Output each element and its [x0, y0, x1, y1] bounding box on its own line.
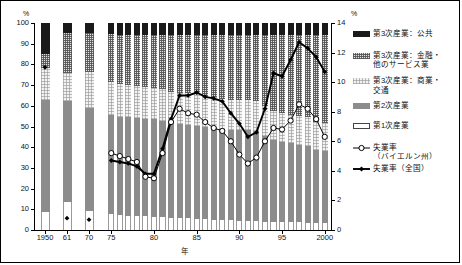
legend-label: 第3次産業：公共 — [373, 29, 433, 38]
line-marker-open-circle — [194, 112, 199, 117]
left-tick-mark — [31, 168, 34, 169]
left-tick-label: 70 — [1, 81, 29, 89]
legend-label: 第3次産業：商業・ — [373, 76, 441, 85]
legend-label: 第2次産業 — [373, 101, 409, 110]
right-tick-label: 8 — [337, 108, 341, 116]
line-marker-open-circle — [271, 125, 276, 130]
legend-item-tertiary-public[interactable]: 第3次産業：公共 — [353, 29, 457, 39]
line-marker-open-circle — [305, 106, 310, 111]
x-tick-label: 61 — [63, 234, 71, 242]
right-tick-mark — [332, 82, 335, 83]
line-marker-open-circle — [322, 134, 327, 139]
left-tick-label: 20 — [1, 185, 29, 193]
legend-label: 第1次産業 — [373, 121, 409, 130]
x-tick-label: 90 — [235, 234, 243, 242]
line-marker-open-circle — [262, 139, 267, 144]
line-marker-filled-diamond — [87, 217, 92, 222]
x-tick-label: 75 — [107, 234, 115, 242]
x-tick-mark — [239, 231, 240, 234]
legend-label: 失業率（全国） — [373, 164, 429, 173]
line-marker-open-circle — [279, 127, 284, 132]
legend-label-line2: （バイエルン州） — [353, 152, 457, 161]
x-tick-mark — [111, 231, 112, 234]
line-marker-open-circle — [245, 161, 250, 166]
right-tick-label: 10 — [337, 78, 345, 86]
line-marker-open-circle — [117, 153, 122, 158]
line-marker-open-circle — [177, 106, 182, 111]
right-axis-unit: % — [351, 10, 357, 17]
legend-item-tertiary-commerce[interactable]: 第3次産業：商業・交通 — [353, 76, 457, 95]
right-tick-label: 14 — [337, 19, 345, 27]
line-marker-filled-diamond — [117, 160, 122, 165]
line-marker-open-circle — [297, 102, 302, 107]
line-marker-filled-diamond — [43, 65, 48, 70]
left-tick-mark — [31, 85, 34, 86]
left-tick-mark — [31, 189, 34, 190]
open-circle-marker-icon — [353, 144, 370, 152]
line-marker-filled-diamond — [186, 93, 191, 98]
legend-label: 失業率 — [373, 143, 397, 152]
line-marker-open-circle — [237, 152, 242, 157]
line-marker-filled-diamond — [177, 93, 182, 98]
x-tick-mark — [325, 231, 326, 234]
line-marker-open-circle — [160, 151, 165, 156]
line-marker-open-circle — [168, 119, 173, 124]
left-tick-label: 40 — [1, 143, 29, 151]
line-unemp-bavaria — [109, 102, 328, 181]
line-marker-filled-diamond — [65, 216, 70, 221]
line-marker-filled-diamond — [211, 96, 216, 101]
line-marker-open-circle — [143, 174, 148, 179]
left-tick-label: 10 — [1, 206, 29, 214]
left-axis-unit: % — [23, 10, 29, 17]
line-marker-open-circle — [151, 176, 156, 181]
line-marker-filled-diamond — [109, 158, 114, 163]
line-marker-open-circle — [220, 128, 225, 133]
right-tick-mark — [332, 171, 335, 172]
legend-item-primary[interactable]: 第1次産業 — [353, 121, 457, 131]
x-tick-label: 85 — [192, 234, 200, 242]
legend-swatch-primary — [353, 123, 370, 129]
legend-item-tertiary-finance[interactable]: 第3次産業：金融・他のサービス業 — [353, 51, 457, 70]
x-axis-label: 年 — [181, 245, 188, 256]
line-marker-open-circle — [288, 118, 293, 123]
line-marker-open-circle — [126, 156, 131, 161]
left-tick-mark — [31, 230, 34, 231]
x-tick-mark — [154, 231, 155, 234]
left-tick-mark — [31, 23, 34, 24]
x-tick-label: 2000 — [316, 234, 333, 242]
left-tick-mark — [31, 209, 34, 210]
left-tick-mark — [31, 147, 34, 148]
line-marker-open-circle — [109, 151, 114, 156]
x-tick-mark — [67, 231, 68, 234]
right-tick-mark — [332, 112, 335, 113]
line-marker-open-circle — [211, 125, 216, 130]
line-marker-open-circle — [228, 139, 233, 144]
left-tick-mark — [31, 127, 34, 128]
left-tick-mark — [31, 64, 34, 65]
legend-swatch-tertiary-finance — [353, 53, 370, 59]
line-marker-filled-diamond — [263, 106, 268, 111]
left-tick-label: 100 — [1, 19, 29, 27]
legend-label-line2: 交通 — [353, 86, 457, 95]
line-marker-open-circle — [254, 155, 259, 160]
x-tick-mark — [89, 231, 90, 234]
legend-item-unemp-bavaria[interactable]: 失業率（バイエルン州） — [353, 143, 457, 162]
left-tick-label: 0 — [1, 226, 29, 234]
x-tick-mark — [45, 231, 46, 234]
left-tick-label: 90 — [1, 40, 29, 48]
right-tick-label: 2 — [337, 197, 341, 205]
right-tick-label: 6 — [337, 138, 341, 146]
right-tick-label: 0 — [337, 226, 341, 234]
right-tick-mark — [332, 230, 335, 231]
legend-item-secondary[interactable]: 第2次産業 — [353, 101, 457, 111]
x-tick-label: 1950 — [37, 234, 54, 242]
legend-swatch-tertiary-public — [353, 31, 370, 37]
legend-label-line2: 他のサービス業 — [353, 60, 457, 69]
x-axis — [34, 230, 332, 231]
x-tick-label: 95 — [278, 234, 286, 242]
legend-swatch-secondary — [353, 103, 370, 109]
line-marker-open-circle — [314, 117, 319, 122]
x-tick-label: 80 — [150, 234, 158, 242]
x-tick-label: 70 — [85, 234, 93, 242]
legend-item-unemp-national[interactable]: 失業率（全国） — [353, 164, 457, 174]
